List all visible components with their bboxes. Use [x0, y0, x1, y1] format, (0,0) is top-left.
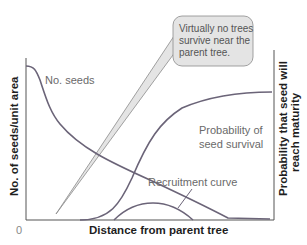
- y-axis-left-title: No. of seeds/unit area: [8, 76, 20, 196]
- y-axis-right-title-1: Probability that seed will: [277, 61, 289, 196]
- survival-label-1: Probability of: [199, 124, 264, 136]
- callout-line-3: parent tree.: [179, 47, 230, 58]
- survival-curve: [80, 92, 272, 220]
- recruitment-curve: [114, 203, 193, 220]
- x-axis-title: Distance from parent tree: [89, 224, 228, 236]
- seeds-label: No. seeds: [45, 74, 95, 86]
- origin-label: 0: [16, 224, 22, 236]
- recruitment-label: Recruitment curve: [148, 176, 237, 188]
- callout-line-2: survive near the: [179, 35, 251, 46]
- y-axis-right-title-2: reach maturity: [289, 92, 301, 172]
- survival-label-2: seed survival: [199, 138, 263, 150]
- callout-line-1: Virtually no trees: [179, 23, 253, 34]
- janzen-connell-diagram: Virtually no trees survive near the pare…: [0, 0, 307, 245]
